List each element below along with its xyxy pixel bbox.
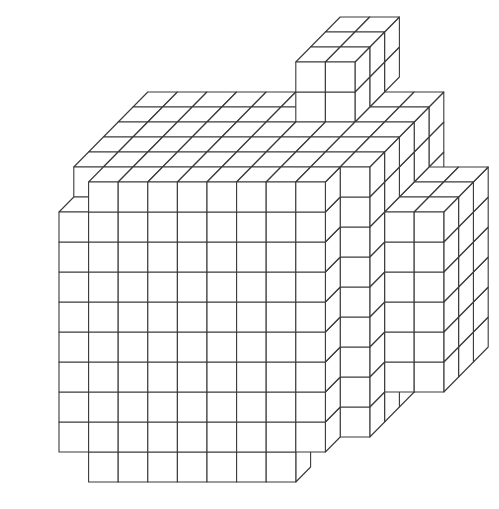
cube-front-face — [148, 242, 178, 272]
cube-front-face — [118, 422, 148, 452]
cube-front-face — [148, 392, 178, 422]
cube-front-face — [266, 272, 296, 302]
cube-front-face — [237, 362, 267, 392]
cube-front-face — [207, 362, 237, 392]
cube-front-face — [237, 272, 267, 302]
cube-front-face — [237, 302, 267, 332]
cube-front-face — [207, 182, 237, 212]
cube-front-face — [207, 332, 237, 362]
cube-front-face — [237, 212, 267, 242]
cube-front-face — [266, 452, 296, 482]
cube-front-face — [340, 257, 370, 287]
cube-front-face — [177, 302, 207, 332]
cube-front-face — [148, 272, 178, 302]
cube-front-face — [296, 362, 326, 392]
cube-front-face — [237, 452, 267, 482]
cube-front-face — [177, 272, 207, 302]
cube-front-face — [340, 167, 370, 197]
voxel-drawing — [0, 0, 499, 509]
cube-front-face — [414, 302, 444, 332]
cube-front-face — [148, 332, 178, 362]
cube-front-face — [118, 392, 148, 422]
cube-front-face — [340, 197, 370, 227]
cube-front-face — [118, 272, 148, 302]
cube-front-face — [118, 212, 148, 242]
voxel-figure — [0, 0, 499, 509]
cube-front-face — [296, 212, 326, 242]
cube-front-face — [177, 422, 207, 452]
cube-front-face — [148, 182, 178, 212]
cube-front-face — [148, 452, 178, 482]
cube-front-face — [148, 212, 178, 242]
cube-front-face — [59, 392, 89, 422]
cube-front-face — [177, 452, 207, 482]
cube-front-face — [266, 332, 296, 362]
cube-front-face — [59, 422, 89, 452]
cube-front-face — [296, 422, 326, 452]
cube-front-face — [207, 272, 237, 302]
cube-front-face — [266, 362, 296, 392]
cube-front-face — [296, 62, 326, 92]
cube-front-face — [207, 212, 237, 242]
cube-front-face — [59, 242, 89, 272]
cube-front-face — [89, 422, 119, 452]
cube-front-face — [207, 452, 237, 482]
cube-front-face — [118, 332, 148, 362]
cube-front-face — [296, 392, 326, 422]
cube-front-face — [414, 362, 444, 392]
cube-front-face — [207, 302, 237, 332]
cube-front-face — [296, 242, 326, 272]
cube-front-face — [89, 362, 119, 392]
cube-front-face — [325, 62, 355, 92]
cube-front-face — [385, 332, 415, 362]
cube-front-face — [296, 92, 326, 122]
cube-front-face — [414, 242, 444, 272]
cube-front-face — [266, 242, 296, 272]
cube-front-face — [237, 242, 267, 272]
cube-front-face — [237, 392, 267, 422]
cube-front-face — [325, 92, 355, 122]
cube-front-face — [340, 317, 370, 347]
cube-front-face — [340, 377, 370, 407]
cube-front-face — [89, 332, 119, 362]
cube-front-face — [118, 452, 148, 482]
cube-front-face — [207, 392, 237, 422]
cube-front-face — [385, 242, 415, 272]
cube-front-face — [177, 362, 207, 392]
cube-front-face — [237, 182, 267, 212]
cube-front-face — [177, 182, 207, 212]
cube-front-face — [118, 182, 148, 212]
cube-front-face — [148, 422, 178, 452]
cube-front-face — [385, 302, 415, 332]
cube-front-face — [59, 332, 89, 362]
cube-front-face — [207, 242, 237, 272]
cube-front-face — [414, 212, 444, 242]
cube-front-face — [296, 302, 326, 332]
cube-front-face — [266, 302, 296, 332]
cube-front-face — [59, 362, 89, 392]
cube-front-face — [385, 212, 415, 242]
cube-front-face — [340, 407, 370, 437]
cube-front-face — [89, 242, 119, 272]
cube-front-face — [237, 332, 267, 362]
cube-front-face — [266, 422, 296, 452]
cube-front-face — [148, 302, 178, 332]
cube-front-face — [414, 272, 444, 302]
cube-front-face — [266, 392, 296, 422]
cube-front-face — [414, 332, 444, 362]
cube-front-face — [266, 212, 296, 242]
cube-front-face — [59, 212, 89, 242]
cube-front-face — [89, 452, 119, 482]
cube-front-face — [177, 212, 207, 242]
cube-front-face — [89, 392, 119, 422]
cube-front-face — [296, 182, 326, 212]
cube-front-face — [59, 302, 89, 332]
cube-front-face — [385, 272, 415, 302]
cube-front-face — [177, 332, 207, 362]
cube-front-face — [118, 242, 148, 272]
cube-front-face — [177, 392, 207, 422]
cube-front-face — [148, 362, 178, 392]
cube-front-face — [118, 362, 148, 392]
cube-front-face — [89, 212, 119, 242]
cube-front-face — [266, 182, 296, 212]
